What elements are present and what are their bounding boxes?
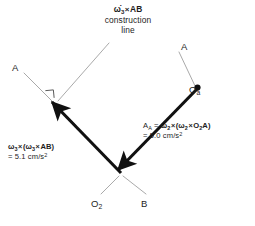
right-equation-value: = 5.0 cm/s2 <box>143 131 211 141</box>
point-label-o-a: Oa <box>189 84 200 97</box>
point-label-b: B <box>141 198 147 209</box>
point-label-a-upper-left: A <box>12 62 18 73</box>
left-equation-value: = 5.1 cm/s2 <box>8 152 54 162</box>
omega-dot-3-symbol: ω̇ <box>114 4 121 14</box>
o-a-main: O <box>189 84 197 95</box>
right-angle-icon <box>45 90 54 98</box>
acceleration-diagram-figure: ω̇3×AB construction line ω3×(ω3×AB) = 5.… <box>0 0 255 226</box>
vector-omega3-cross-ab <box>52 102 121 173</box>
line-apex-to-b <box>123 176 146 194</box>
equals-sign: = <box>154 121 159 130</box>
line-apex-to-o2 <box>101 176 119 194</box>
close-paren: ) <box>52 142 55 151</box>
construction-line-caption: ω̇3×AB construction line <box>78 5 178 36</box>
point-label-a-upper-right: A <box>181 41 187 52</box>
left-equation-label: ω3×(ω3×AB) = 5.1 cm/s2 <box>8 143 54 162</box>
construction-line-omega3-ab <box>58 43 109 101</box>
close-paren-right: ) <box>208 121 211 130</box>
left-value-exponent: 2 <box>44 152 47 158</box>
left-value-text: = 5.1 cm/s <box>8 152 44 161</box>
operand-ab: AB <box>130 4 142 14</box>
line-oa-to-a <box>179 52 196 88</box>
left-equation-expression: ω3×(ω3×AB) <box>8 143 54 152</box>
right-value-text: = 5.0 cm/s <box>143 131 179 140</box>
right-equation-label: AA = ω2×(ω2×O2A) = 5.0 cm/s2 <box>143 122 211 141</box>
operand-ab-inner: AB <box>40 142 51 151</box>
o-2-subscript: 2 <box>99 203 103 210</box>
o-2-main: O <box>91 198 99 209</box>
right-equation-expression: AA = ω2×(ω2×O2A) <box>143 122 211 131</box>
a-a-subscript: A <box>148 125 152 131</box>
point-label-o-2: O2 <box>91 198 102 211</box>
caption-line-3: line <box>78 26 178 36</box>
right-value-exponent: 2 <box>179 131 182 137</box>
o-a-subscript: a <box>197 89 201 96</box>
